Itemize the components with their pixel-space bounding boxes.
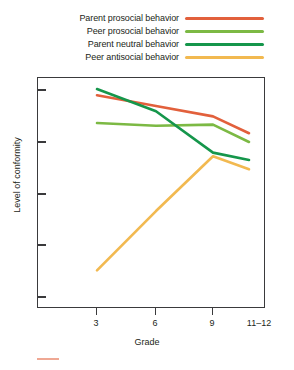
y-axis-tick — [37, 141, 46, 143]
series-line-1 — [97, 123, 249, 142]
figure-line-chart: Parent prosocial behavior Peer prosocial… — [0, 0, 294, 370]
x-axis-tick — [155, 308, 156, 315]
series-line-3 — [97, 156, 249, 270]
x-axis-title: Grade — [0, 337, 294, 347]
y-axis-tick — [37, 193, 46, 195]
x-axis-tick-label: 11–12 — [247, 318, 271, 329]
legend-item-peer-prosocial-behavior: Peer prosocial behavior — [0, 25, 294, 37]
stray-rule-mark — [37, 358, 59, 360]
x-axis-tick — [212, 308, 213, 315]
legend-item-peer-antisocial-behavior: Peer antisocial behavior — [0, 51, 294, 63]
legend-label: Peer antisocial behavior — [0, 52, 185, 62]
legend-swatch-line — [185, 30, 264, 33]
chart-legend: Parent prosocial behavior Peer prosocial… — [0, 12, 294, 64]
legend-label: Peer prosocial behavior — [0, 26, 185, 36]
legend-swatch-line — [185, 43, 264, 46]
legend-label: Parent prosocial behavior — [0, 13, 185, 23]
series-line-0 — [97, 95, 249, 133]
legend-swatch-line — [185, 17, 264, 20]
legend-label: Parent neutral behavior — [0, 39, 185, 49]
legend-item-parent-prosocial-behavior: Parent prosocial behavior — [0, 12, 294, 24]
y-axis-tick — [37, 89, 46, 91]
y-axis-tick — [37, 244, 46, 246]
data-lines-svg — [38, 78, 266, 309]
x-axis-tick — [96, 308, 97, 315]
y-axis-title: Level of conformity — [12, 100, 22, 250]
legend-item-parent-neutral-behavior: Parent neutral behavior — [0, 38, 294, 50]
legend-swatch-line — [185, 56, 264, 59]
x-axis-tick-label: 6 — [152, 318, 157, 329]
x-axis-tick-label: 9 — [209, 318, 214, 329]
y-axis-tick — [37, 296, 46, 298]
plot-area — [37, 77, 265, 308]
x-axis-tick-label: 3 — [93, 318, 98, 329]
